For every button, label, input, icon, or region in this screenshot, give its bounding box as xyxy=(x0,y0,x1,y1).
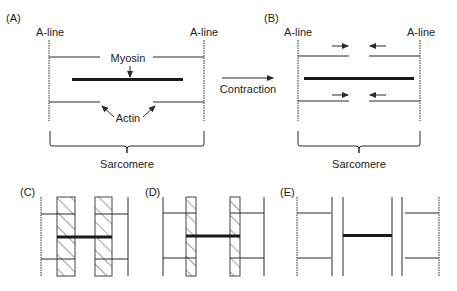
panel-c-label: (C) xyxy=(20,186,35,198)
panel-b-label: (B) xyxy=(264,12,279,24)
sarcomere-label-b: Sarcomere xyxy=(332,158,386,170)
contraction-label: Contraction xyxy=(220,83,276,95)
myosin-label: Myosin xyxy=(111,52,146,64)
panel-a-label: (A) xyxy=(6,12,21,24)
panel-c: (C) xyxy=(20,186,128,276)
sarcomere-label-a: Sarcomere xyxy=(100,158,154,170)
panel-e-label: (E) xyxy=(280,186,295,198)
a-line-left-label-b: A-line xyxy=(284,26,312,38)
panel-e: (E) xyxy=(280,186,439,276)
sarcomere-brace-a xyxy=(50,131,204,153)
sarcomere-contraction-diagram: (A) A-line A-line Myosin Actin Sarcomere… xyxy=(0,0,457,291)
a-line-right-label-b: A-line xyxy=(407,26,435,38)
sarcomere-brace-b xyxy=(298,131,420,153)
actin-label: Actin xyxy=(116,112,140,124)
panel-d-label: (D) xyxy=(145,186,160,198)
actin-pointer-right-arrow xyxy=(143,106,155,117)
panel-d: (D) xyxy=(145,186,264,276)
a-line-left-label: A-line xyxy=(36,26,64,38)
contraction-transition: Contraction xyxy=(220,78,276,95)
actin-pointer-left-arrow xyxy=(102,106,114,117)
a-line-right-label: A-line xyxy=(190,26,218,38)
panel-a: (A) A-line A-line Myosin Actin Sarcomere xyxy=(6,12,218,170)
panel-b: (B) A-line A-line Sarcomere xyxy=(264,12,435,170)
